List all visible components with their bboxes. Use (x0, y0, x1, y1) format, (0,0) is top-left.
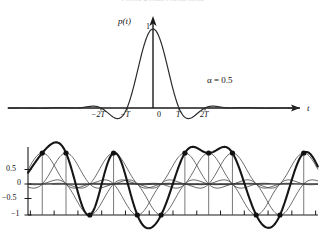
bottom-x-ticks (30, 211, 315, 216)
sample-point (277, 212, 282, 217)
sample-point (135, 212, 140, 217)
sample-point (182, 150, 187, 155)
individual-pulse (219, 153, 318, 188)
individual-pulse (195, 180, 318, 215)
sample-point (63, 150, 68, 155)
sample-point (159, 212, 164, 217)
sample-point (230, 150, 235, 155)
ytick-label-minus0p5: −0.5 (2, 194, 17, 202)
t-axis-label: t (307, 104, 310, 113)
sample-point (206, 150, 211, 155)
pulse-panel: p(t) 1 α = 0.5 t −2T −T 0 T 2T (0, 0, 326, 124)
sample-point (254, 212, 259, 217)
xtick-label-T: T (176, 111, 180, 119)
xtick-label-zero: 0 (157, 111, 161, 119)
sample-point (301, 150, 306, 155)
pulse-train-plot (0, 124, 326, 248)
pulse-train-panel: 0.5 0 −0.5 −1 (0, 124, 326, 248)
individual-pulse (52, 180, 222, 215)
xtick-label-minusT: −T (120, 111, 130, 119)
sample-point (111, 150, 116, 155)
sample-point (40, 150, 45, 155)
p-axis-label: p(t) (118, 17, 131, 26)
ytick-label-minus1: −1 (11, 210, 20, 218)
ytick-label-0: 0 (17, 179, 21, 187)
pulse-plot (0, 0, 326, 124)
figure-root: Figure Raised cosine pulse (0, 0, 326, 248)
ytick-label-0p5: 0.5 (6, 165, 16, 173)
xtick-label-minus2T: −2T (91, 111, 105, 119)
peak-value-label: 1 (146, 23, 150, 31)
alpha-annotation: α = 0.5 (207, 76, 233, 85)
sample-point (87, 212, 92, 217)
xtick-label-2T: 2T (200, 111, 208, 119)
